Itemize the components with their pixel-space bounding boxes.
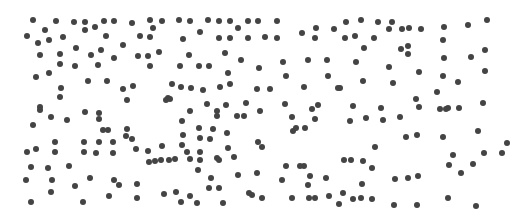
dot: [82, 109, 88, 115]
dot: [223, 102, 229, 108]
dot: [150, 25, 156, 31]
dot: [28, 199, 34, 205]
dot: [413, 96, 419, 102]
dot: [255, 18, 261, 24]
dot: [360, 158, 366, 164]
dot: [441, 55, 447, 61]
dot: [445, 195, 451, 201]
dot: [208, 175, 214, 181]
dot: [166, 157, 172, 163]
dot: [23, 177, 29, 183]
dot: [147, 17, 153, 23]
dot: [458, 170, 464, 176]
dot: [216, 157, 222, 163]
dot: [133, 146, 139, 152]
dot: [187, 18, 193, 24]
dot: [414, 202, 420, 208]
dot: [177, 63, 183, 69]
dot: [81, 149, 87, 155]
dot: [134, 181, 140, 187]
dot: [350, 196, 356, 202]
dot: [369, 165, 375, 171]
dot: [341, 157, 347, 163]
dot: [399, 26, 405, 32]
dot: [325, 73, 331, 79]
dot: [405, 175, 411, 181]
dot: [235, 172, 241, 178]
dot: [134, 195, 140, 201]
dot: [227, 35, 233, 41]
dot: [392, 176, 398, 182]
dot: [359, 181, 365, 187]
dot: [37, 52, 43, 58]
dot: [93, 150, 99, 156]
dot: [30, 122, 36, 128]
dot: [480, 100, 486, 106]
dot: [241, 113, 247, 119]
dot: [398, 46, 404, 52]
dot: [331, 26, 337, 32]
dot: [446, 162, 452, 168]
dot: [24, 149, 30, 155]
dot: [267, 86, 273, 92]
dot: [98, 47, 104, 53]
dot: [194, 200, 200, 206]
dot: [42, 27, 48, 33]
dot: [274, 35, 280, 41]
dot: [312, 116, 318, 122]
dot: [456, 105, 462, 111]
dot: [386, 64, 392, 70]
dot: [184, 149, 190, 155]
dot: [101, 18, 107, 24]
dot: [172, 156, 178, 162]
dot: [440, 37, 446, 43]
dot: [187, 108, 193, 114]
dot: [46, 37, 52, 43]
dot: [403, 134, 409, 140]
dot: [391, 202, 397, 208]
dot: [48, 189, 54, 195]
dot: [358, 17, 364, 23]
dot: [179, 142, 185, 148]
dot: [225, 70, 231, 76]
dot: [124, 126, 130, 132]
dot: [71, 19, 77, 25]
dot: [225, 145, 231, 151]
dot: [104, 78, 110, 84]
dot: [88, 52, 94, 58]
dot: [96, 139, 102, 145]
dot: [369, 196, 375, 202]
dot: [440, 73, 446, 79]
dot: [312, 35, 318, 41]
dot: [80, 199, 86, 205]
dot: [110, 150, 116, 156]
dot: [85, 78, 91, 84]
dot: [173, 189, 179, 195]
dot: [375, 19, 381, 25]
dot: [129, 20, 135, 26]
dot: [484, 17, 490, 23]
dot: [33, 74, 39, 80]
dot: [197, 157, 203, 163]
dot: [482, 68, 488, 74]
dot: [443, 106, 449, 112]
dot: [110, 139, 116, 145]
dot: [343, 19, 349, 25]
dot: [135, 53, 141, 59]
dot: [299, 30, 305, 36]
dot: [243, 100, 249, 106]
dot: [200, 87, 206, 93]
dot: [499, 150, 505, 156]
dot: [147, 63, 153, 69]
dot: [246, 190, 252, 196]
dot: [49, 177, 55, 183]
dot: [363, 115, 369, 121]
dot: [216, 185, 222, 191]
dot: [35, 40, 41, 46]
dot: [52, 149, 58, 155]
dot: [197, 135, 203, 141]
dot: [337, 85, 343, 91]
dot: [145, 148, 151, 154]
dot: [217, 84, 223, 90]
dot: [297, 163, 303, 169]
